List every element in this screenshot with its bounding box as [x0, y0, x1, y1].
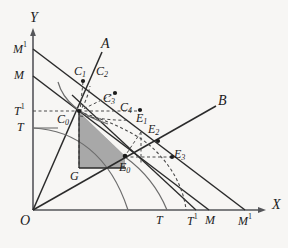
point-sub-E1: 1	[143, 117, 147, 126]
point-dot-E0	[123, 154, 128, 159]
point-label-E3: E3	[174, 148, 185, 160]
y-tick-base-M: M	[14, 68, 24, 82]
point-sub-C0: 0	[65, 118, 69, 127]
x-axis-label: X	[272, 198, 281, 212]
point-sub-C1: 1	[82, 70, 86, 79]
y-tick-label-T1: T1	[14, 104, 25, 117]
x-tick-base-T1: T	[187, 214, 194, 228]
x-tick-label-M: M	[205, 214, 215, 226]
point-dot-E2	[156, 139, 160, 143]
x-tick-base-T: T	[156, 213, 163, 227]
y-tick-sup-M1: 1	[23, 40, 27, 49]
budget-line-M1	[33, 49, 245, 210]
point-label-G: G	[70, 170, 79, 182]
point-base-C1: C	[74, 64, 82, 78]
y-axis-arrowhead	[30, 28, 36, 36]
x-tick-label-T1: T1	[187, 214, 198, 227]
x-tick-sup-T1: 1	[194, 212, 198, 221]
y-tick-base-T1: T	[14, 104, 21, 118]
point-base-C4: C	[120, 100, 128, 114]
ray-label-B: B	[218, 94, 227, 108]
diagram-canvas: Y X O A B M1 M T1 T T T1 M M1 C0 C1 C2 C…	[0, 0, 288, 248]
point-dot-C0	[77, 109, 81, 113]
point-label-C0: C0	[57, 113, 69, 125]
y-axis-label: Y	[30, 11, 38, 25]
y-tick-label-T: T	[17, 121, 24, 133]
y-tick-sup-T1: 1	[21, 102, 25, 111]
point-base-G: G	[70, 169, 79, 183]
point-label-C1: C1	[74, 65, 86, 77]
x-tick-label-T: T	[156, 214, 163, 226]
x-tick-base-M: M	[205, 213, 215, 227]
point-base-C0: C	[57, 112, 65, 126]
y-tick-base-M1: M	[13, 42, 23, 56]
point-sub-C3: 3	[111, 97, 115, 106]
point-sub-C2: 2	[104, 70, 108, 79]
origin-label: O	[20, 214, 30, 228]
y-tick-base-T: T	[17, 120, 24, 134]
budget-line-M	[33, 76, 209, 210]
x-tick-sup-M1: 1	[248, 212, 252, 221]
point-label-E0: E0	[119, 161, 130, 173]
point-label-E2: E2	[148, 123, 159, 135]
point-label-C2: C2	[96, 65, 108, 77]
y-tick-label-M: M	[14, 69, 24, 81]
point-sub-E3: 3	[181, 153, 185, 162]
point-base-C3: C	[103, 91, 111, 105]
point-label-E1: E1	[136, 112, 147, 124]
point-label-C3: C3	[103, 92, 115, 104]
y-tick-label-M1: M1	[13, 42, 27, 55]
indifference-curve-E0-solid	[125, 157, 167, 210]
ray-label-A: A	[101, 37, 110, 51]
point-sub-C4: 4	[128, 106, 132, 115]
point-sub-E0: 0	[126, 166, 130, 175]
x-tick-base-M1: M	[238, 214, 248, 228]
point-dot-C1	[81, 79, 85, 83]
x-axis-arrowhead	[258, 207, 266, 213]
point-base-C2: C	[96, 64, 104, 78]
x-tick-label-M1: M1	[238, 214, 252, 227]
point-sub-E2: 2	[155, 128, 159, 137]
point-label-C4: C4	[120, 101, 132, 113]
